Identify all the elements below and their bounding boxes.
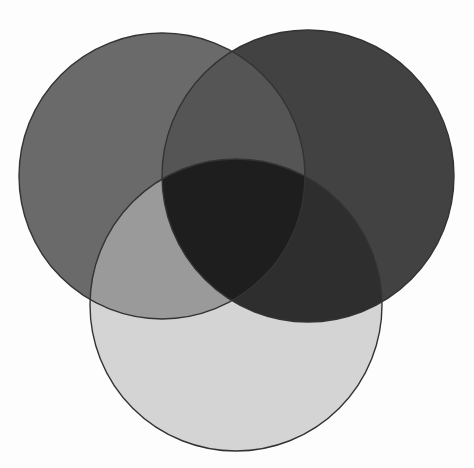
venn-diagram-svg	[0, 0, 474, 468]
venn-diagram	[0, 0, 474, 468]
